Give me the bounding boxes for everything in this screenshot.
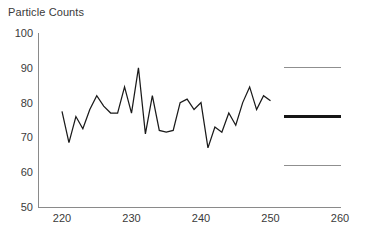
y-tick-label-70: 70 [21, 131, 33, 143]
plot-area: 5060708090100 220230240250260 [0, 0, 370, 239]
y-tick-label-90: 90 [21, 62, 33, 74]
y-tick-labels: 5060708090100 [15, 27, 33, 213]
series-line-particle-counts [62, 68, 271, 148]
y-tick-label-50: 50 [21, 201, 33, 213]
particle-counts-chart: Particle Counts 5060708090100 2202302402… [0, 0, 370, 239]
x-tick-label-260: 260 [331, 212, 349, 224]
y-tick-label-80: 80 [21, 97, 33, 109]
reference-lines [284, 68, 342, 165]
x-tick-label-240: 240 [192, 212, 210, 224]
x-tick-label-250: 250 [261, 212, 279, 224]
x-tick-labels: 220230240250260 [53, 212, 349, 224]
x-tick-label-220: 220 [53, 212, 71, 224]
x-axis: 220230240250260 [38, 207, 349, 224]
y-axis: 5060708090100 [15, 27, 38, 213]
y-tick-label-60: 60 [21, 166, 33, 178]
y-tick-label-100: 100 [15, 27, 33, 39]
x-tick-label-230: 230 [122, 212, 140, 224]
